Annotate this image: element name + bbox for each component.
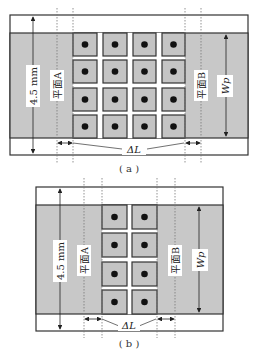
height-label-a: 4.5 mm [28, 66, 39, 105]
height-label-b: 4.5 mm [55, 241, 66, 280]
delta-l-label-b: ΔL [121, 320, 136, 331]
figure-b: 4.5 mm 平面A 平面B Wp ΔL ( b ) [36, 178, 223, 349]
plane-a-label-a: 平面A [52, 72, 63, 99]
figure-a: 4.5 mm 平面A 平面B Wp ΔL ( a ) [10, 8, 248, 174]
diagram-canvas: 4.5 mm 平面A 平面B Wp ΔL ( a ) [0, 0, 260, 354]
plane-b-label-a: 平面B [196, 72, 207, 99]
wp-label-b: Wp [195, 251, 206, 268]
plane-b-label-b: 平面B [170, 247, 181, 274]
caption-b: ( b ) [119, 338, 140, 349]
delta-l-label-a: ΔL [126, 144, 141, 155]
wp-label-a: Wp [220, 77, 231, 94]
plane-a-label-b: 平面A [79, 247, 90, 274]
caption-a: ( a ) [119, 163, 139, 174]
